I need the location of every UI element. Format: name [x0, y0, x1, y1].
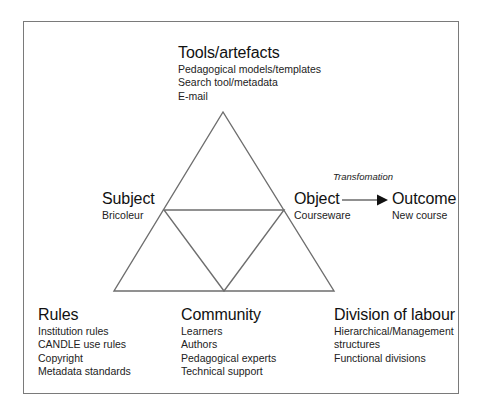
node-community-item: Authors — [181, 338, 276, 352]
inner-triangle — [164, 210, 284, 291]
node-rules: Rules Institution rules CANDLE use rules… — [38, 306, 131, 379]
node-rules-title: Rules — [38, 306, 131, 325]
node-community-item: Learners — [181, 325, 276, 339]
node-division-of-labour: Division of labour Hierarchical/Manageme… — [334, 306, 455, 365]
node-object-item: Courseware — [294, 209, 351, 223]
node-community-title: Community — [181, 306, 276, 325]
node-tools-item: E-mail — [178, 90, 321, 104]
node-outcome: Outcome New course — [392, 190, 456, 222]
node-subject-title: Subject — [102, 190, 155, 209]
node-community-item: Technical support — [181, 365, 276, 379]
node-object-title: Object — [294, 190, 351, 209]
node-division-item: structures — [334, 338, 455, 352]
node-object: Object Courseware — [294, 190, 351, 222]
node-rules-item: CANDLE use rules — [38, 338, 131, 352]
node-community-item: Pedagogical experts — [181, 352, 276, 366]
node-outcome-item: New course — [392, 209, 456, 223]
node-rules-item: Metadata standards — [38, 365, 131, 379]
node-rules-item: Institution rules — [38, 325, 131, 339]
node-division-item: Hierarchical/Management — [334, 325, 455, 339]
node-tools-item: Search tool/metadata — [178, 76, 321, 90]
node-subject: Subject Bricoleur — [102, 190, 155, 222]
node-community: Community Learners Authors Pedagogical e… — [181, 306, 276, 379]
node-subject-item: Bricoleur — [102, 209, 155, 223]
node-division-title: Division of labour — [334, 306, 455, 325]
node-tools-item: Pedagogical models/templates — [178, 63, 321, 77]
node-division-item: Functional divisions — [334, 352, 455, 366]
node-tools: Tools/artefacts Pedagogical models/templ… — [178, 44, 321, 103]
arrowhead-icon — [377, 195, 388, 206]
transformation-label: Transfomation — [333, 171, 393, 182]
node-outcome-title: Outcome — [392, 190, 456, 209]
node-tools-title: Tools/artefacts — [178, 44, 321, 63]
node-rules-item: Copyright — [38, 352, 131, 366]
